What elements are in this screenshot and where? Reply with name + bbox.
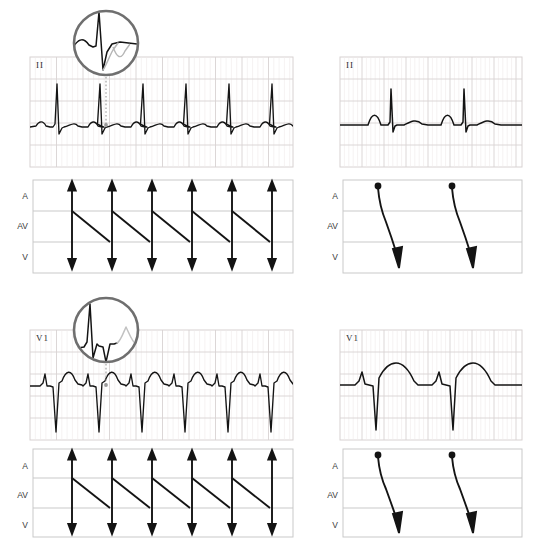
lead-label-bottom-right: V1 xyxy=(346,334,359,343)
magnifier-top-left xyxy=(74,11,138,75)
ladder-bottom-right xyxy=(343,449,522,537)
ladder-tier-label-a-bottom-right: A xyxy=(322,462,338,471)
ladder-top-left xyxy=(33,180,293,273)
lead-label-top-right: II xyxy=(346,61,354,70)
ladder-tier-label-av-bottom-right: AV xyxy=(318,491,338,500)
ladder-tier-label-v-top-left: V xyxy=(12,253,28,262)
lead-label-top-left: II xyxy=(36,61,44,70)
ladder-tier-label-av-bottom-left: AV xyxy=(8,491,28,500)
top-left-graphics xyxy=(0,0,300,280)
ladder-top-right xyxy=(343,180,522,273)
ecg-trace-top-left-beats xyxy=(30,57,293,167)
ladder-tier-label-a-top-right: A xyxy=(322,192,338,201)
ladder-tier-label-v-bottom-left: V xyxy=(12,521,28,530)
ladder-tier-label-a-top-left: A xyxy=(12,192,28,201)
ladder-tier-label-v-bottom-right: V xyxy=(322,521,338,530)
ecg-figure: II A AV V xyxy=(0,0,535,542)
lead-label-bottom-left: V1 xyxy=(36,334,49,343)
ladder-tier-label-av-top-left: AV xyxy=(8,222,28,231)
ecg-grid-top-right xyxy=(340,57,522,167)
magnifier-guide-dot-top-left xyxy=(104,123,108,127)
panel-top-right: II A AV V xyxy=(300,0,535,280)
bottom-right-graphics xyxy=(300,280,535,542)
panel-bottom-left: V1 A AV V xyxy=(0,280,300,542)
top-right-graphics xyxy=(300,0,535,280)
ladder-tier-label-v-top-right: V xyxy=(322,253,338,262)
ladder-bottom-left xyxy=(33,449,293,537)
ladder-tier-label-av-top-right: AV xyxy=(318,222,338,231)
panel-top-left: II A AV V xyxy=(0,0,300,280)
ladder-tier-label-a-bottom-left: A xyxy=(12,462,28,471)
magnifier-guide-dot-bottom-left xyxy=(104,383,108,387)
bottom-left-graphics xyxy=(0,280,300,542)
panel-bottom-right: V1 A AV V xyxy=(300,280,535,542)
